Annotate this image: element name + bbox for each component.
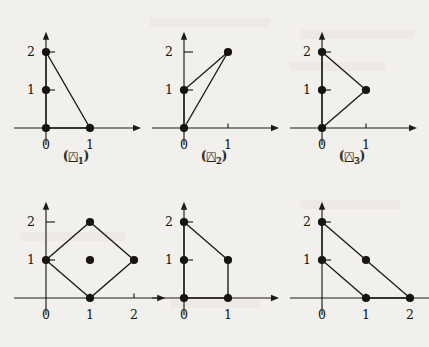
lattice-point bbox=[180, 124, 188, 132]
y-axis-label: 2 bbox=[27, 44, 35, 59]
y-axis-arrowhead bbox=[181, 202, 187, 210]
caption-shape-glyph: □ bbox=[344, 149, 355, 163]
y-axis-arrowhead bbox=[181, 32, 187, 40]
caption-subscript: 1 bbox=[79, 156, 84, 166]
plot-delta-1: 0112 bbox=[2, 6, 150, 146]
caption-shape-glyph: □ bbox=[206, 149, 217, 163]
y-axis-label: 2 bbox=[27, 214, 35, 229]
lattice-point bbox=[180, 256, 188, 264]
y-axis-label: 1 bbox=[303, 252, 311, 267]
lattice-polygon-figure: 0112(△1)0112(△2)0112(△3)01212(□1)0112(□2… bbox=[0, 0, 429, 347]
lattice-point bbox=[318, 124, 326, 132]
lattice-point bbox=[224, 294, 232, 302]
y-axis-label: 2 bbox=[165, 214, 173, 229]
y-axis-arrowhead bbox=[319, 202, 325, 210]
plot-square-3: 01212 bbox=[278, 176, 426, 316]
lattice-point bbox=[42, 86, 50, 94]
caption-shape-glyph: □ bbox=[68, 149, 79, 163]
y-axis-arrowhead bbox=[319, 32, 325, 40]
y-axis-label: 1 bbox=[165, 82, 173, 97]
lattice-point bbox=[224, 256, 232, 264]
lattice-point bbox=[318, 218, 326, 226]
lattice-point bbox=[362, 256, 370, 264]
panel-square-1: 01212(□1) bbox=[2, 176, 150, 316]
y-axis-arrowhead bbox=[43, 32, 49, 40]
lattice-point bbox=[180, 218, 188, 226]
caption-subscript: 2 bbox=[217, 156, 222, 166]
y-axis-arrowhead bbox=[43, 202, 49, 210]
lattice-point bbox=[180, 86, 188, 94]
x-axis-label: 2 bbox=[406, 307, 414, 322]
lattice-point bbox=[362, 294, 370, 302]
lattice-point bbox=[318, 48, 326, 56]
lattice-point bbox=[180, 294, 188, 302]
y-axis-label: 1 bbox=[165, 252, 173, 267]
lattice-point bbox=[86, 218, 94, 226]
lattice-point bbox=[42, 124, 50, 132]
panel-square-3: 01212(□3) bbox=[278, 176, 426, 316]
panel-delta-2: 0112(△2) bbox=[140, 6, 288, 146]
x-axis-label: 0 bbox=[318, 307, 326, 322]
panel-caption-square-2: (□2) bbox=[140, 148, 288, 166]
lattice-point bbox=[318, 86, 326, 94]
y-axis-label: 2 bbox=[303, 214, 311, 229]
caption-subscript: 3 bbox=[355, 156, 360, 166]
lattice-point bbox=[86, 124, 94, 132]
lattice-point bbox=[362, 86, 370, 94]
y-axis-label: 2 bbox=[165, 44, 173, 59]
panel-caption-square-1: (□1) bbox=[2, 148, 150, 166]
plot-square-2: 0112 bbox=[140, 176, 288, 316]
panel-delta-1: 0112(△1) bbox=[2, 6, 150, 146]
panel-delta-3: 0112(△3) bbox=[278, 6, 426, 146]
panel-square-2: 0112(□2) bbox=[140, 176, 288, 316]
lattice-point bbox=[224, 48, 232, 56]
x-axis-label: 2 bbox=[130, 307, 138, 322]
lattice-point bbox=[86, 294, 94, 302]
y-axis-label: 1 bbox=[27, 252, 35, 267]
y-axis-label: 1 bbox=[303, 82, 311, 97]
plot-square-1: 01212 bbox=[2, 176, 150, 316]
lattice-point bbox=[42, 48, 50, 56]
panel-caption-square-3: (□3) bbox=[278, 148, 426, 166]
lattice-point bbox=[42, 256, 50, 264]
x-axis-label: 1 bbox=[86, 307, 94, 322]
x-axis-arrowhead bbox=[409, 125, 417, 131]
y-axis-label: 2 bbox=[303, 44, 311, 59]
x-axis-label: 1 bbox=[362, 307, 370, 322]
lattice-point bbox=[130, 256, 138, 264]
lattice-point bbox=[318, 256, 326, 264]
plot-delta-3: 0112 bbox=[278, 6, 426, 146]
y-axis-label: 1 bbox=[27, 82, 35, 97]
x-axis-label: 0 bbox=[180, 307, 188, 322]
lattice-point bbox=[406, 294, 414, 302]
lattice-point bbox=[86, 256, 94, 264]
plot-delta-2: 0112 bbox=[140, 6, 288, 146]
x-axis-label: 0 bbox=[42, 307, 50, 322]
x-axis-label: 1 bbox=[224, 307, 232, 322]
